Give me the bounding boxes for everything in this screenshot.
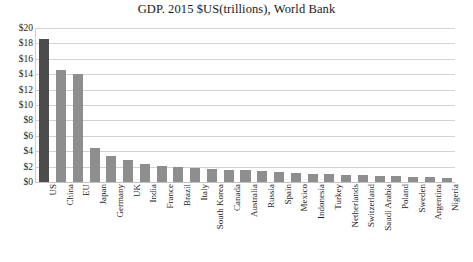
plot-area [36,28,455,182]
x-axis-category-label: Indonesia [316,184,326,219]
y-axis-tick-label: $4 [24,146,34,156]
bar [123,160,133,182]
x-axis-category-label: Saudi Arabia [383,184,393,231]
x-axis-category-label: Russia [266,184,276,208]
x-axis-category-label: Brazil [182,184,192,206]
bar [56,70,66,182]
bar [442,178,452,182]
x-axis-category-label: China [65,184,75,206]
bar [408,177,418,182]
bar [425,177,435,182]
bar [90,148,100,182]
bar [291,173,301,182]
bar [73,74,83,182]
x-axis-category-label: Switzerland [366,184,376,227]
x-axis-category-label: Mexico [299,184,309,212]
x-axis-category-label: Canada [232,184,242,211]
y-axis-tick-label: $6 [24,131,34,141]
bar [106,156,116,182]
bar [140,164,150,182]
y-axis-tick-label: $2 [24,162,34,172]
x-axis-category-label: India [148,184,158,203]
bar [274,172,284,182]
bar-series [36,28,455,182]
x-axis-category-labels: USChinaEUJapanGermanyUKIndiaFranceBrazil… [36,184,455,260]
x-axis-category-label: Japan [98,184,108,205]
x-axis-category-label: Turkey [333,184,343,210]
y-axis-tick-labels: $20$18$16$14$12$10$8$6$4$2$0 [0,28,33,182]
x-axis-category-label: Netherlands [350,184,360,227]
bar [207,169,217,182]
bar [391,176,401,182]
x-axis-category-label: Argentina [433,184,443,220]
bar [190,168,200,182]
x-axis-category-label: US [48,184,58,196]
chart-title: GDP. 2015 $US(trillions), World Bank [0,2,473,17]
x-axis-category-label: Poland [400,184,410,209]
bar [341,175,351,182]
x-axis-category-label: Italy [199,184,209,201]
x-axis-category-label: Sweden [417,184,427,213]
bar [173,167,183,182]
x-axis-category-label: EU [81,184,91,196]
y-axis-tick-label: $18 [19,38,33,48]
bar [358,175,368,182]
x-axis-category-label: Spain [283,184,293,205]
bar [240,170,250,182]
bar [39,39,49,182]
y-axis-tick-label: $0 [24,177,34,187]
x-axis-category-label: South Korea [215,184,225,229]
gdp-bar-chart: GDP. 2015 $US(trillions), World Bank $20… [0,0,473,262]
bar [157,166,167,182]
bar [257,171,267,182]
x-axis-category-label: Australia [249,184,259,217]
bar [308,174,318,182]
y-axis-tick-label: $16 [19,54,33,64]
y-axis-tick-label: $14 [19,69,33,79]
x-axis-category-label: France [165,184,175,209]
bar [324,174,334,182]
x-axis-category-label: Nigeria [450,184,460,211]
y-axis-tick-label: $20 [19,23,33,33]
y-axis-tick-label: $12 [19,85,33,95]
y-axis-tick-label: $8 [24,115,34,125]
x-axis-category-label: Germany [115,184,125,218]
x-axis-category-label: UK [132,184,142,197]
y-axis-tick-label: $10 [19,100,33,110]
bar [224,170,234,182]
bar [375,176,385,182]
